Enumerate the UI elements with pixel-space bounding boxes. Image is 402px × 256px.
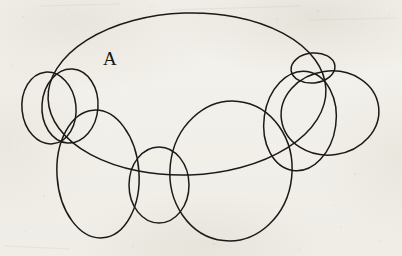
lower-right-large-ellipse (163, 95, 299, 247)
right-inner-ellipse (257, 66, 342, 175)
figure-page: A (0, 0, 402, 256)
overlapping-ellipses-figure (0, 0, 402, 256)
label-A: A (103, 48, 117, 70)
curve-group (18, 8, 384, 247)
outer-ellipse-A (45, 8, 328, 180)
